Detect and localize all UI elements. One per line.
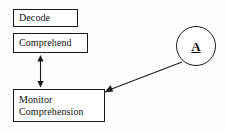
node-monitor-comprehension[interactable]: Monitor Comprehension bbox=[13, 89, 105, 122]
arrowhead-down bbox=[37, 81, 43, 88]
node-agent-label: A bbox=[191, 40, 200, 53]
node-monitor-label-line2: Comprehension bbox=[19, 106, 104, 118]
node-decode-label: Decode bbox=[19, 12, 77, 24]
node-agent-circle[interactable]: A bbox=[176, 26, 216, 66]
node-comprehend[interactable]: Comprehend bbox=[13, 33, 88, 53]
connector-agent-monitor bbox=[105, 62, 183, 93]
node-comprehend-label: Comprehend bbox=[19, 37, 87, 49]
node-monitor-label-line1: Monitor bbox=[19, 94, 104, 106]
arrowhead-up bbox=[37, 55, 43, 62]
connector-comprehend-monitor bbox=[37, 55, 43, 88]
diagram-canvas: Decode Comprehend Monitor Comprehension … bbox=[0, 0, 225, 133]
node-decode[interactable]: Decode bbox=[13, 9, 78, 27]
arrowhead-diagonal bbox=[105, 85, 114, 92]
